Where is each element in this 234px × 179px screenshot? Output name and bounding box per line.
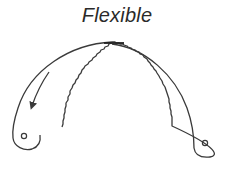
left-blade-serrated-edge <box>62 43 112 127</box>
right-blade-inner-edge <box>112 44 194 148</box>
right-blade-serrated-edge <box>112 42 214 157</box>
left-hole-icon <box>21 133 26 138</box>
left-blade <box>13 42 112 150</box>
right-blade <box>112 42 214 157</box>
left-blade-outer-edge <box>13 42 112 150</box>
flexible-blade-diagram <box>0 0 234 179</box>
bend-arrow-icon <box>32 72 49 106</box>
